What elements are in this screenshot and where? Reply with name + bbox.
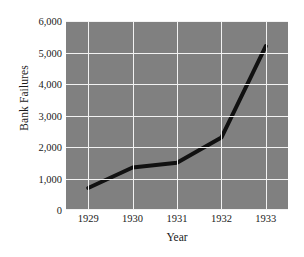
x-axis-tick-label: 1929 xyxy=(78,213,99,224)
y-axis-tick-label: 1,000 xyxy=(26,173,62,184)
y-axis-tick-label: 4,000 xyxy=(26,79,62,90)
y-axis-tick-label: 5,000 xyxy=(26,47,62,58)
x-axis-tick-label: 1931 xyxy=(167,213,188,224)
x-axis-tick-label: 1933 xyxy=(255,213,276,224)
x-axis-tick-label: 1932 xyxy=(211,213,232,224)
y-axis-tick-label: 2,000 xyxy=(26,142,62,153)
gridline-vertical xyxy=(133,21,134,210)
gridline-vertical xyxy=(177,21,178,210)
y-axis-tick-label: 6,000 xyxy=(26,16,62,27)
gridline-vertical xyxy=(88,21,89,210)
x-axis-tick-label: 1930 xyxy=(122,213,143,224)
gridline-vertical xyxy=(221,21,222,210)
chart-figure: Bank Failures 01,0002,0003,0004,0005,000… xyxy=(0,0,304,257)
plot-area xyxy=(66,21,288,210)
gridline-vertical xyxy=(266,21,267,210)
y-axis-tick-label: 3,000 xyxy=(26,110,62,121)
x-axis-tick-labels: 19291930193119321933 xyxy=(0,213,304,229)
x-axis-title: Year xyxy=(66,231,288,243)
